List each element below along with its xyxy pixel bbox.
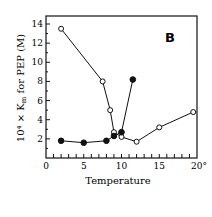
filled-data-point [104,138,110,144]
svg-text:10⁴ × Km for PEP (M): 10⁴ × Km for PEP (M) [15,34,28,143]
km-temperature-chart: 2468101214 05101520° B Temperature 10⁴ ×… [0,0,212,217]
y-tick-label: 14 [32,19,44,29]
y-tick-label: 6 [37,96,43,106]
x-tick-label: 15 [154,161,166,171]
y-tick-label: 2 [37,134,43,144]
filled-data-point [119,129,125,135]
y-tick-label: 8 [37,76,43,86]
filled-data-point [81,140,87,146]
y-axis-title: 10⁴ × Km for PEP (M) [15,34,28,143]
filled-data-point [130,77,136,83]
open-data-point [134,139,139,144]
y-tick-label: 4 [37,115,43,125]
open-data-point [157,125,162,130]
open-data-point [59,26,64,31]
y-axis-title-rest: for PEP (M) [15,34,26,97]
filled-data-point [111,133,117,139]
x-axis-ticks: 05101520° [43,154,207,171]
x-axis-title: Temperature [85,175,151,186]
x-tick-label: 0 [43,161,49,171]
filled-data-point [58,138,64,144]
y-tick-label: 10 [32,57,44,67]
open-data-point [108,108,113,113]
x-tick-label: 20° [191,161,207,171]
y-tick-label: 12 [32,38,43,48]
y-axis-title-main: 10⁴ × K [15,103,26,142]
open-data-point [100,79,105,84]
open-data-point [191,110,196,115]
panel-label: B [165,30,175,45]
data-series [58,26,195,145]
y-axis-ticks: 2468101214 [32,19,50,148]
x-tick-label: 5 [81,161,87,171]
x-tick-label: 10 [116,161,128,171]
